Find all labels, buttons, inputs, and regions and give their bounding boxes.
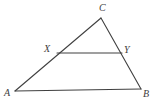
segment-side-AB — [15, 89, 141, 91]
triangle-diagram-svg — [0, 0, 161, 107]
vertex-label-Y: Y — [124, 45, 130, 55]
vertex-label-B: B — [143, 89, 149, 99]
vertex-label-A: A — [4, 88, 10, 98]
vertex-label-C: C — [99, 3, 106, 13]
geometry-figure: C X Y A B — [0, 0, 161, 107]
vertex-label-X: X — [44, 44, 50, 54]
segment-side-AC — [15, 18, 101, 91]
